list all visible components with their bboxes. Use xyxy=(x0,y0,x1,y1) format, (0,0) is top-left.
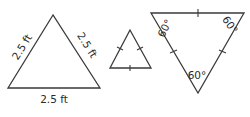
angle-label-top-right: 60° xyxy=(220,14,241,36)
angle-label-bottom: 60° xyxy=(188,69,207,81)
triangle-congruence-marks xyxy=(110,30,151,71)
left-side-label: 2.5 ft xyxy=(9,32,34,62)
triangle-side-lengths: 2.5 ft 2.5 ft 2.5 ft xyxy=(8,15,100,105)
angle-label-top-left: 60° xyxy=(155,17,174,39)
bottom-side-label: 2.5 ft xyxy=(40,93,68,105)
equilateral-triangles-diagram: 2.5 ft 2.5 ft 2.5 ft 60° 60° 60° xyxy=(0,0,250,117)
triangle-2-outline xyxy=(110,30,151,68)
triangle-angle-marks: 60° 60° 60° xyxy=(151,9,244,93)
